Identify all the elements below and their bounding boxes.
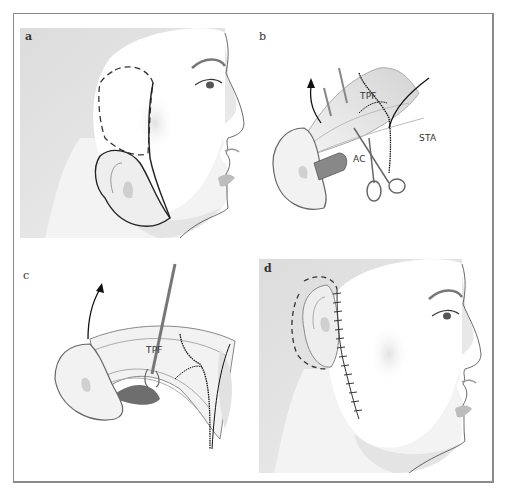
panel-c: c TPF: [20, 259, 250, 474]
annotation-tpf-b: TPF: [360, 91, 377, 101]
rotation-arrow: [88, 289, 100, 339]
face-profile-illustration-d: [259, 259, 489, 473]
arrow-head-icon: [96, 283, 104, 293]
face-profile-illustration-a: [20, 28, 250, 238]
annotation-ac: AC: [353, 154, 366, 164]
panel-label-c: c: [23, 269, 29, 282]
flap-rotation-illustration-c: [20, 259, 250, 474]
flap-dissection-illustration-b: [259, 28, 489, 238]
panel-b: b TPF STA AC: [259, 28, 489, 238]
panel-label-b: b: [259, 30, 266, 43]
panel-label-d: d: [264, 262, 272, 275]
panel-a: a: [20, 28, 250, 238]
panel-label-a: a: [25, 30, 32, 43]
arrow-head-icon: [307, 78, 315, 88]
cartilage-framework: [115, 385, 160, 405]
annotation-sta: STA: [419, 133, 436, 143]
annotation-tpf-c: TPF: [146, 345, 163, 355]
panel-d: d: [259, 259, 489, 473]
